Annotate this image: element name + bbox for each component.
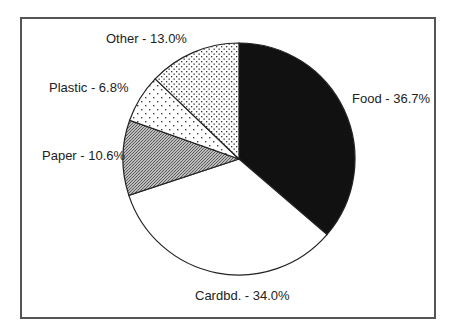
- slice-label-plastic: Plastic - 6.8%: [49, 80, 129, 95]
- slice-label-cardbd: Cardbd. - 34.0%: [195, 288, 290, 303]
- slice-label-other: Other - 13.0%: [106, 31, 187, 46]
- slice-label-food: Food - 36.7%: [352, 91, 430, 106]
- pie-chart: Food - 36.7%Cardbd. - 34.0%Paper - 10.6%…: [0, 0, 456, 334]
- slice-label-paper: Paper - 10.6%: [42, 148, 126, 163]
